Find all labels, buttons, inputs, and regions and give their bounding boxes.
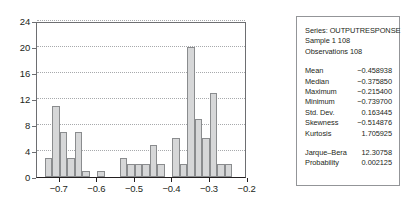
y-tick-label: 0 bbox=[0, 173, 30, 183]
stat-label: Maximum bbox=[305, 87, 337, 97]
stat-value: −0.375850 bbox=[357, 77, 392, 87]
stat-row: Skewness−0.514876 bbox=[305, 118, 392, 128]
stat-label: Kurtosis bbox=[305, 129, 331, 139]
series-name: Series: OUTPUTRESPONSE bbox=[305, 26, 392, 36]
histogram-bar bbox=[75, 132, 83, 178]
stat-value: −0.739700 bbox=[357, 97, 392, 107]
histogram-bar bbox=[97, 171, 105, 178]
stat-label: Std. Dev. bbox=[305, 108, 334, 118]
x-tick-mark bbox=[96, 178, 97, 182]
histogram-bar bbox=[142, 164, 150, 177]
histogram-bar bbox=[172, 138, 180, 177]
x-tick-mark bbox=[134, 178, 135, 182]
stat-value: 0.163445 bbox=[362, 108, 392, 118]
statistics-header: Series: OUTPUTRESPONSE Sample 1 108 Obse… bbox=[305, 26, 392, 57]
stat-value: 0.002125 bbox=[362, 158, 392, 168]
histogram-bars bbox=[37, 23, 245, 177]
stat-value: −0.514876 bbox=[357, 118, 392, 128]
stat-value: 1.705925 bbox=[362, 129, 392, 139]
x-tick-mark bbox=[171, 178, 172, 182]
histogram-bar bbox=[60, 132, 68, 178]
histogram-bar bbox=[210, 93, 218, 178]
observations-count: Observations 108 bbox=[305, 47, 392, 57]
x-tick-mark bbox=[59, 178, 60, 182]
stat-row: Mean−0.458938 bbox=[305, 66, 392, 76]
histogram-bar bbox=[195, 119, 203, 178]
stat-value: −0.215400 bbox=[357, 87, 392, 97]
histogram-bar bbox=[67, 158, 75, 178]
x-tick-label: −0.5 bbox=[117, 184, 151, 194]
stat-value: −0.458938 bbox=[357, 66, 392, 76]
x-tick-label: −0.4 bbox=[154, 184, 188, 194]
stat-row: Minimum−0.739700 bbox=[305, 97, 392, 107]
spacer bbox=[305, 139, 392, 148]
histogram-bar bbox=[120, 158, 128, 178]
y-tick-label: 8 bbox=[0, 121, 30, 131]
stat-label: Minimum bbox=[305, 97, 335, 107]
y-tick-label: 16 bbox=[0, 69, 30, 79]
x-tick-label: −0.7 bbox=[42, 184, 76, 194]
x-tick-label: −0.2 bbox=[230, 184, 264, 194]
normality-test: Jarque–Bera12.30758Probability0.002125 bbox=[305, 148, 392, 169]
test-row: Jarque–Bera12.30758 bbox=[305, 148, 392, 158]
sample-range: Sample 1 108 bbox=[305, 36, 392, 46]
x-tick-label: −0.6 bbox=[79, 184, 113, 194]
histogram-figure: 04812162024 −0.7−0.6−0.5−0.4−0.3−0.2 Ser… bbox=[0, 0, 413, 212]
histogram-bar bbox=[202, 138, 210, 177]
stat-row: Kurtosis1.705925 bbox=[305, 129, 392, 139]
y-tick-label: 4 bbox=[0, 147, 30, 157]
histogram-bar bbox=[187, 47, 195, 177]
histogram-bar bbox=[52, 106, 60, 178]
plot-frame bbox=[36, 22, 246, 178]
x-tick-mark bbox=[247, 178, 248, 182]
test-row: Probability0.002125 bbox=[305, 158, 392, 168]
y-tick-mark bbox=[32, 178, 36, 179]
stat-label: Mean bbox=[305, 66, 323, 76]
y-tick-label: 12 bbox=[0, 95, 30, 105]
histogram-bar bbox=[180, 164, 188, 177]
histogram-bar bbox=[82, 171, 90, 178]
histogram-bar bbox=[127, 164, 135, 177]
spacer bbox=[305, 57, 392, 66]
y-tick-label: 24 bbox=[0, 17, 30, 27]
stat-row: Median−0.375850 bbox=[305, 77, 392, 87]
stat-row: Maximum−0.215400 bbox=[305, 87, 392, 97]
x-tick-label: −0.3 bbox=[192, 184, 226, 194]
histogram-bar bbox=[135, 164, 143, 177]
statistics-panel: Series: OUTPUTRESPONSE Sample 1 108 Obse… bbox=[296, 16, 400, 186]
descriptive-statistics: Mean−0.458938Median−0.375850Maximum−0.21… bbox=[305, 66, 392, 139]
gridline-y-24 bbox=[37, 20, 245, 21]
stat-label: Probability bbox=[305, 158, 339, 168]
stat-row: Std. Dev.0.163445 bbox=[305, 108, 392, 118]
y-tick-label: 20 bbox=[0, 43, 30, 53]
stat-value: 12.30758 bbox=[362, 148, 392, 158]
chart-area: 04812162024 −0.7−0.6−0.5−0.4−0.3−0.2 bbox=[0, 0, 250, 212]
histogram-bar bbox=[217, 164, 225, 177]
histogram-bar bbox=[150, 145, 158, 178]
histogram-bar bbox=[157, 164, 165, 177]
stat-label: Skewness bbox=[305, 118, 338, 128]
stat-label: Median bbox=[305, 77, 329, 87]
x-tick-mark bbox=[209, 178, 210, 182]
histogram-bar bbox=[45, 158, 53, 178]
histogram-bar bbox=[225, 164, 233, 177]
stat-label: Jarque–Bera bbox=[305, 148, 347, 158]
